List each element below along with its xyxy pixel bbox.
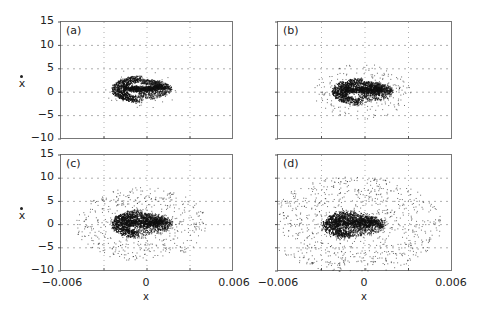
scatter-points <box>105 71 176 108</box>
y-tick-neg5: −5 <box>28 109 54 120</box>
plot-area-c <box>61 155 233 271</box>
x-axis-label-left: x <box>136 291 156 302</box>
panel-label-a: (a) <box>66 24 81 37</box>
y-tick-10: 10 <box>28 39 54 50</box>
y-tick-15: 15 <box>28 148 54 159</box>
y-tick-0: 0 <box>28 218 54 229</box>
y-tick-10: 10 <box>28 171 54 182</box>
scatter-points <box>76 187 205 260</box>
plot-area-a <box>61 22 233 139</box>
dot-accent-icon <box>20 207 23 210</box>
panel-c: (c) <box>60 154 233 271</box>
plot-area-b <box>278 22 452 139</box>
x-tick-neg0006: −0.006 <box>248 277 308 288</box>
x-tick-0: 0 <box>334 277 394 288</box>
y-tick-neg10: −10 <box>28 264 54 275</box>
x-axis-label-right: x <box>354 291 374 302</box>
x-tick-0006: 0.006 <box>421 277 481 288</box>
panel-d: (d) <box>277 154 452 271</box>
y-tick-15: 15 <box>28 15 54 26</box>
dot-accent-icon <box>20 75 23 78</box>
x-tick-neg0006: −0.006 <box>32 277 92 288</box>
plot-area-d <box>278 155 452 271</box>
y-tick-neg5: −5 <box>28 241 54 252</box>
y-axis-label-top: x <box>15 77 29 90</box>
y-tick-0: 0 <box>28 86 54 97</box>
y-tick-neg10: −10 <box>28 132 54 143</box>
y-axis-label-bottom: x <box>15 209 29 222</box>
panel-a: (a) <box>60 21 233 139</box>
scatter-points <box>315 65 412 120</box>
panel-b: (b) <box>277 21 452 139</box>
panel-label-d: (d) <box>283 157 299 170</box>
panel-label-c: (c) <box>66 157 81 170</box>
y-tick-5: 5 <box>28 62 54 73</box>
y-tick-5: 5 <box>28 195 54 206</box>
x-tick-0: 0 <box>116 277 176 288</box>
panel-label-b: (b) <box>283 24 299 37</box>
